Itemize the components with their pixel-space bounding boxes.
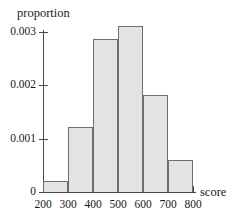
histogram-figure: proportion score 00.0010.0020.003 200300… <box>0 0 247 224</box>
histogram-bar <box>68 127 93 192</box>
x-tick-mark <box>193 186 194 193</box>
histogram-bar <box>118 26 143 192</box>
histogram-bar <box>43 181 68 192</box>
x-tick-label: 800 <box>176 199 210 211</box>
y-axis-label: proportion <box>17 7 70 20</box>
x-axis-label: score <box>200 186 226 199</box>
histogram-bar <box>93 39 118 192</box>
histogram-bars <box>43 20 193 192</box>
y-tick-label: 0.002 <box>0 79 36 91</box>
y-tick-label: 0 <box>0 186 36 198</box>
histogram-bar <box>168 160 193 192</box>
y-tick-label: 0.001 <box>0 133 36 145</box>
y-tick-label: 0.003 <box>0 26 36 38</box>
histogram-bar <box>143 95 168 192</box>
